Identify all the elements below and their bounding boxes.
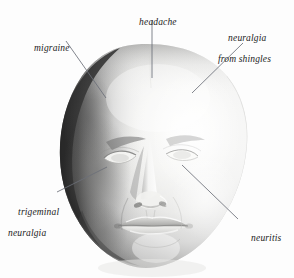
anatomical-face-figure: headache migraine neuralgia from shingle… — [0, 0, 294, 278]
label-headache: headache — [129, 6, 177, 38]
label-trigeminal-neuralgia-line2: neuralgia — [8, 228, 59, 239]
label-trigeminal-neuralgia: trigeminal neuralgia — [8, 196, 59, 259]
label-neuralgia-from-shingles: neuralgia from shingles — [218, 22, 271, 85]
label-trigeminal-neuralgia-line1: trigeminal — [18, 207, 59, 217]
label-neuritis-line1: neuritis — [251, 233, 281, 243]
label-neuralgia-from-shingles-line2: from shingles — [218, 54, 271, 65]
label-neuritis: neuritis — [241, 222, 281, 254]
label-migraine: migraine — [24, 32, 70, 64]
label-migraine-line1: migraine — [34, 43, 70, 53]
label-neuralgia-from-shingles-line1: neuralgia — [228, 33, 266, 43]
label-headache-line1: headache — [139, 17, 177, 27]
